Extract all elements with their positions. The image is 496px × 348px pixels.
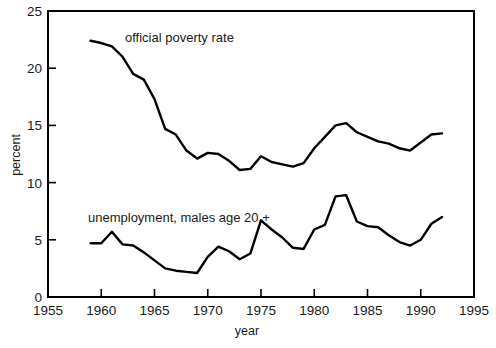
x-tick-label-1970: 1970 (193, 303, 223, 318)
y-tick-label-5: 5 (34, 233, 42, 248)
chart-screenshot: 0 5 10 15 20 25 1955 1960 1965 1970 1975… (0, 0, 496, 348)
x-axis-title: year (235, 324, 259, 338)
y-tick-label-15: 15 (27, 118, 42, 133)
x-tick-label-1955: 1955 (33, 303, 63, 318)
y-tick-label-20: 20 (27, 61, 42, 76)
y-axis-title: percent (9, 134, 23, 176)
poverty-rate-annotation: official poverty rate (125, 30, 234, 45)
x-tick-label-1965: 1965 (139, 303, 169, 318)
plot-frame (48, 11, 474, 297)
x-tick-label-1990: 1990 (406, 303, 436, 318)
y-tick-label-25: 25 (27, 4, 42, 19)
unemployment-line (91, 195, 442, 273)
x-tick-label-1980: 1980 (299, 303, 329, 318)
x-tick-label-1960: 1960 (86, 303, 116, 318)
x-tick-label-1975: 1975 (246, 303, 276, 318)
y-axis-ticks (48, 11, 56, 297)
line-chart: 0 5 10 15 20 25 1955 1960 1965 1970 1975… (0, 0, 496, 348)
x-tick-label-1985: 1985 (352, 303, 382, 318)
x-axis-ticks (48, 289, 474, 297)
poverty-rate-line (91, 41, 442, 170)
unemployment-annotation: unemployment, males age 20 + (88, 210, 270, 225)
x-tick-label-1995: 1995 (459, 303, 489, 318)
y-tick-label-10: 10 (27, 176, 42, 191)
